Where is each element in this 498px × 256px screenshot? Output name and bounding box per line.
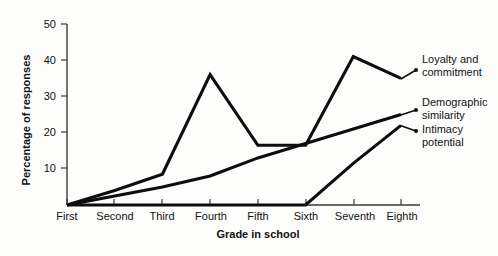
y-tick-label-10: 10 (44, 162, 56, 174)
x-tick-label-fifth: Fifth (247, 210, 268, 222)
series-label-intimacy-potential: Intimacy potential (401, 123, 464, 148)
x-tick-label-third: Third (149, 210, 174, 222)
x-axis-title: Grade in school (216, 228, 299, 240)
series-line-demographic-similarity (67, 115, 401, 206)
y-tick-labels: 50 40 30 20 10 (44, 18, 56, 174)
series-label-demographic-line1: Demographic (422, 96, 488, 108)
series-label-intimacy-line2: potential (422, 136, 464, 148)
y-tick-label-40: 40 (44, 54, 56, 66)
series-line-intimacy-potential (67, 125, 401, 205)
x-tick-label-second: Second (96, 210, 133, 222)
y-tick-label-50: 50 (44, 18, 56, 30)
y-axis-title: Percentage of responses (20, 55, 32, 186)
x-tick-label-seventh: Seventh (335, 210, 375, 222)
y-tick-label-20: 20 (44, 126, 56, 138)
y-tick-marks (61, 24, 67, 168)
x-category-labels: First Second Third Fourth Fifth Sixth Se… (56, 210, 417, 222)
line-chart: Percentage of responses 50 40 30 20 10 (0, 0, 498, 256)
series-label-loyalty-line1: Loyalty and (422, 53, 478, 65)
x-tick-label-fourth: Fourth (195, 210, 227, 222)
x-tick-label-first: First (56, 210, 77, 222)
series-label-demographic-line2: similarity (422, 109, 465, 121)
x-tick-label-sixth: Sixth (294, 210, 318, 222)
series-label-loyalty-line2: commitment (422, 66, 482, 78)
chart-container: Percentage of responses 50 40 30 20 10 (0, 0, 498, 256)
y-tick-label-30: 30 (44, 90, 56, 102)
series-label-loyalty-and-commitment: Loyalty and commitment (401, 53, 482, 79)
series-label-intimacy-line1: Intimacy (422, 123, 463, 135)
x-tick-label-eighth: Eighth (386, 210, 417, 222)
series-label-demographic-similarity: Demographic similarity (401, 96, 488, 121)
